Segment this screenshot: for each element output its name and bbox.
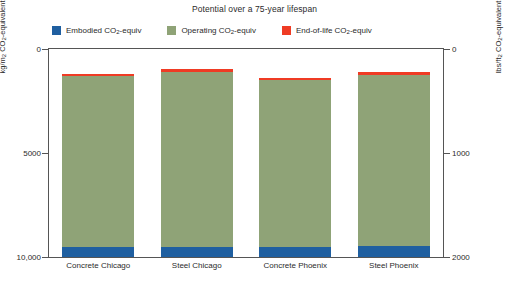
bar-segment-embodied[interactable] bbox=[161, 247, 233, 257]
y-tick-label-right: 0 bbox=[452, 45, 492, 54]
embodied-swatch bbox=[52, 26, 61, 35]
y-tick-label-right: 1000 bbox=[452, 149, 492, 158]
legend-item-endoflife[interactable]: End-of-life CO2-equiv bbox=[282, 26, 372, 35]
y-axis-left-title: kg/m2 CO2-equivalent bbox=[0, 0, 7, 112]
superscript-2: 2 bbox=[1, 54, 7, 57]
superscript-2: 2 bbox=[497, 54, 503, 57]
x-axis-label: Concrete Chicago bbox=[66, 261, 130, 270]
y-tick-mark-right bbox=[444, 153, 450, 154]
bar-segment-operating[interactable] bbox=[259, 80, 331, 247]
bar-group[interactable] bbox=[358, 72, 430, 257]
chart-figure: Potential over a 75-year lifespan Embodi… bbox=[0, 0, 509, 282]
endoflife-swatch bbox=[282, 26, 291, 35]
bar-group[interactable] bbox=[62, 74, 134, 257]
bar-segment-embodied[interactable] bbox=[358, 246, 430, 257]
subscript-2: 2 bbox=[1, 37, 7, 40]
bar-group[interactable] bbox=[259, 78, 331, 257]
bar-segment-embodied[interactable] bbox=[62, 247, 134, 257]
legend-label-operating: Operating CO2-equiv bbox=[181, 26, 256, 35]
bar-group[interactable] bbox=[161, 69, 233, 257]
x-axis-label: Steel Phoenix bbox=[369, 261, 418, 270]
chart-legend: Embodied CO2-equiv Operating CO2-equiv E… bbox=[52, 26, 372, 35]
x-axis-label: Steel Chicago bbox=[172, 261, 222, 270]
legend-item-operating[interactable]: Operating CO2-equiv bbox=[167, 26, 256, 35]
bar-series-layer bbox=[49, 49, 443, 257]
subscript-2: 2 bbox=[497, 37, 503, 40]
operating-swatch bbox=[167, 26, 176, 35]
y-tick-mark-right bbox=[444, 49, 450, 50]
x-axis-label: Concrete Phoenix bbox=[263, 261, 327, 270]
y-tick-label-right: 2000 bbox=[452, 253, 492, 262]
legend-item-embodied[interactable]: Embodied CO2-equiv bbox=[52, 26, 141, 35]
y-tick-mark-left bbox=[42, 153, 48, 154]
y-axis-right-title: lbs/ft2 CO2-equivalent bbox=[494, 0, 503, 112]
bar-segment-operating[interactable] bbox=[161, 72, 233, 247]
y-tick-label-left: 0 bbox=[1, 45, 41, 54]
y-tick-mark-left bbox=[42, 257, 48, 258]
legend-label-endoflife: End-of-life CO2-equiv bbox=[296, 26, 372, 35]
y-tick-mark-left bbox=[42, 49, 48, 50]
chart-title: Potential over a 75-year lifespan bbox=[0, 4, 509, 14]
x-axis-labels: Concrete ChicagoSteel ChicagoConcrete Ph… bbox=[48, 261, 444, 277]
y-tick-mark-right bbox=[444, 257, 450, 258]
y-tick-label-left: 10,000 bbox=[1, 253, 41, 262]
bar-segment-operating[interactable] bbox=[62, 76, 134, 247]
legend-label-embodied: Embodied CO2-equiv bbox=[66, 26, 141, 35]
bar-segment-embodied[interactable] bbox=[259, 247, 331, 257]
y-tick-label-left: 5000 bbox=[1, 149, 41, 158]
bar-segment-operating[interactable] bbox=[358, 75, 430, 247]
